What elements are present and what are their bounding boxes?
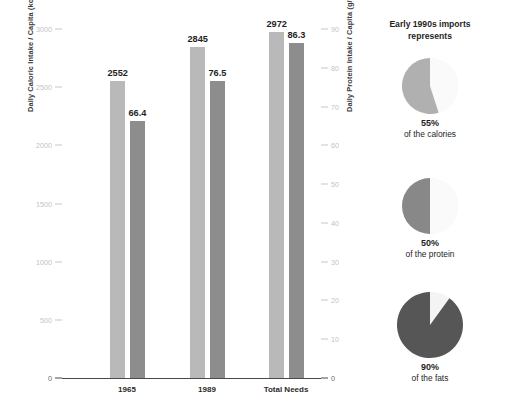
pie-slice-filled — [397, 292, 463, 358]
y-tick-label-right: 60 — [331, 141, 339, 150]
y-tick-label-right: 40 — [331, 218, 339, 227]
y-tick-mark-right — [321, 184, 328, 185]
y-tick-mark-left — [55, 319, 62, 320]
y-tick-label-right: 30 — [331, 257, 339, 266]
pie-caption: of the protein — [355, 249, 505, 259]
x-axis-line — [62, 378, 321, 379]
y-tick-mark-left — [55, 203, 62, 204]
bar-value-label-calories: 2845 — [188, 34, 208, 44]
y-tick-mark-left — [55, 145, 62, 146]
bar-calories[interactable] — [190, 47, 205, 378]
figure-root: Daily Caloric Intake / Capita (kcal/day)… — [0, 0, 505, 416]
pie-block: 90%of the fats — [355, 292, 505, 383]
bar-value-label-calories: 2552 — [108, 68, 128, 78]
y-tick-mark-right — [321, 67, 328, 68]
y-tick-mark-right — [321, 29, 328, 30]
pie-slice-filled — [402, 178, 430, 234]
y-tick-mark-left — [55, 378, 62, 379]
bar-protein[interactable] — [210, 81, 225, 378]
y-tick-label-right: 70 — [331, 102, 339, 111]
bar-calories[interactable] — [269, 32, 284, 378]
y-tick-label-left: 2500 — [36, 83, 52, 92]
bar-chart-panel: Daily Caloric Intake / Capita (kcal/day)… — [0, 0, 355, 416]
pie-block: 55%of the calories — [355, 58, 505, 139]
pie-block: 50%of the protein — [355, 178, 505, 259]
y-tick-label-left: 2000 — [36, 141, 52, 150]
y-tick-mark-right — [321, 145, 328, 146]
pie-chart[interactable] — [402, 178, 458, 234]
pie-percent-label: 90% — [355, 362, 505, 372]
pie-caption: of the calories — [355, 129, 505, 139]
y-tick-label-left: 3000 — [36, 25, 52, 34]
y-tick-label-right: 80 — [331, 63, 339, 72]
y-tick-label-right: 20 — [331, 296, 339, 305]
y-tick-label-left: 500 — [40, 315, 52, 324]
y-tick-label-left: 0 — [48, 374, 52, 383]
plot-area: 050010001500200025003000 010203040506070… — [0, 0, 355, 416]
y-tick-mark-right — [321, 339, 328, 340]
bar-value-label-calories: 2972 — [267, 19, 287, 29]
y-tick-mark-right — [321, 222, 328, 223]
x-axis-group-label: 1989 — [162, 385, 252, 394]
pie-caption: of the fats — [355, 373, 505, 383]
x-axis-group-label: Total Needs — [241, 385, 331, 394]
y-tick-label-left: 1000 — [36, 257, 52, 266]
y-tick-mark-right — [321, 106, 328, 107]
y-tick-label-right: 0 — [331, 374, 335, 383]
x-axis-group-label: 1965 — [82, 385, 172, 394]
pie-chart[interactable] — [397, 292, 463, 358]
y-tick-mark-left — [55, 87, 62, 88]
bar-value-label-protein: 66.4 — [129, 108, 147, 118]
bar-value-label-protein: 86.3 — [288, 30, 306, 40]
y-tick-mark-right — [321, 261, 328, 262]
bar-protein[interactable] — [289, 43, 304, 378]
y-tick-label-right: 90 — [331, 25, 339, 34]
bar-calories[interactable] — [110, 81, 125, 378]
bar-value-label-protein: 76.5 — [209, 68, 227, 78]
y-tick-mark-right — [321, 378, 328, 379]
pie-percent-label: 50% — [355, 238, 505, 248]
pie-percent-label: 55% — [355, 118, 505, 128]
y-tick-mark-right — [321, 300, 328, 301]
pie-chart-panel: Early 1990s imports represents 55%of the… — [355, 0, 505, 416]
y-tick-mark-left — [55, 29, 62, 30]
pie-panel-title: Early 1990s imports represents — [355, 18, 505, 42]
pie-panel-title-line2: represents — [355, 30, 505, 42]
y-tick-label-right: 50 — [331, 180, 339, 189]
bar-protein[interactable] — [130, 121, 145, 378]
pie-chart[interactable] — [402, 58, 458, 114]
pie-panel-title-line1: Early 1990s imports — [355, 18, 505, 30]
y-tick-label-right: 10 — [331, 335, 339, 344]
y-tick-mark-left — [55, 261, 62, 262]
y-tick-label-left: 1500 — [36, 199, 52, 208]
